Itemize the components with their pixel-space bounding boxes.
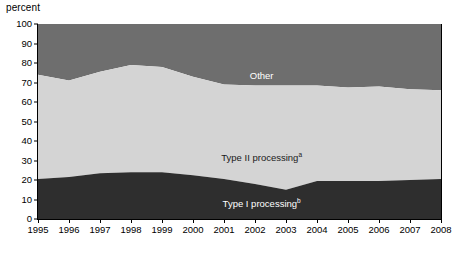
x-axis-tick-label: 2004 xyxy=(306,225,327,235)
x-axis-tick-label: 2002 xyxy=(244,225,265,235)
x-axis-tick-label: 1996 xyxy=(58,225,79,235)
x-axis-tick-label: 2006 xyxy=(368,225,389,235)
y-axis-tick-mark xyxy=(34,121,38,122)
x-axis-tick-mark xyxy=(441,219,442,223)
x-axis-tick-label: 1999 xyxy=(151,225,172,235)
x-axis-tick-mark xyxy=(38,219,39,223)
y-axis-tick-mark xyxy=(34,24,38,25)
y-axis-unit-label: percent xyxy=(6,2,40,13)
y-axis-tick-mark xyxy=(34,160,38,161)
x-axis-tick-mark xyxy=(410,219,411,223)
stacked-area-chart: percent 0102030405060708090100 199519961… xyxy=(0,0,454,255)
x-axis-tick-mark xyxy=(224,219,225,223)
x-axis-tick-mark xyxy=(69,219,70,223)
area-series-svg xyxy=(38,24,441,219)
plot-area: 0102030405060708090100 19951996199719981… xyxy=(37,24,442,220)
x-axis-tick-label: 2000 xyxy=(182,225,203,235)
x-axis-tick-mark xyxy=(100,219,101,223)
y-axis-tick-mark xyxy=(34,199,38,200)
x-axis-tick-label: 2001 xyxy=(213,225,234,235)
x-axis-tick-label: 1998 xyxy=(120,225,141,235)
x-axis-tick-mark xyxy=(379,219,380,223)
x-axis-tick-label: 1997 xyxy=(89,225,110,235)
y-axis-tick-mark xyxy=(34,82,38,83)
x-axis-tick-label: 1995 xyxy=(27,225,48,235)
x-axis-tick-mark xyxy=(317,219,318,223)
y-axis-tick-mark xyxy=(34,63,38,64)
y-axis-tick-mark xyxy=(34,43,38,44)
x-axis-tick-mark xyxy=(162,219,163,223)
y-axis-tick-mark xyxy=(34,180,38,181)
x-axis-tick-mark xyxy=(255,219,256,223)
y-axis-tick-mark xyxy=(34,141,38,142)
x-axis-tick-label: 2003 xyxy=(275,225,296,235)
x-axis-tick-mark xyxy=(348,219,349,223)
x-axis-tick-label: 2008 xyxy=(430,225,451,235)
x-axis-tick-mark xyxy=(193,219,194,223)
x-axis-tick-mark xyxy=(131,219,132,223)
x-axis-tick-label: 2005 xyxy=(337,225,358,235)
x-axis-tick-mark xyxy=(286,219,287,223)
y-axis-tick-mark xyxy=(34,102,38,103)
x-axis-tick-label: 2007 xyxy=(399,225,420,235)
